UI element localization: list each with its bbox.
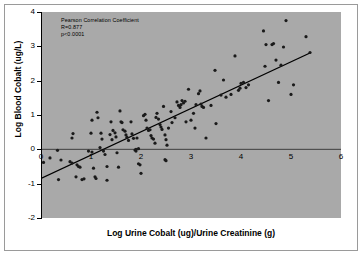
x-axis-tick-label: 4: [239, 153, 243, 161]
chart-figure: -2-101234 0123456 Log Blood Cobalt (ug/L…: [0, 0, 362, 255]
statistics-annotation: Pearson Correlation Coefficient R=0.877 …: [61, 17, 139, 39]
y-axis-title: Log Blood Cobalt (ug/L): [13, 19, 23, 159]
x-axis-tick-label: 3: [189, 153, 193, 161]
x-axis-tick-label: 5: [289, 153, 293, 161]
annotation-line-r: R=0.877: [61, 24, 139, 31]
annotation-line-p: p<0.0001: [61, 31, 139, 38]
x-axis-tick-labels: 0123456: [0, 0, 362, 255]
annotation-line-title: Pearson Correlation Coefficient: [61, 17, 139, 24]
x-axis-tick-label: 6: [339, 153, 343, 161]
x-axis-tick-label: 0: [39, 153, 43, 161]
x-axis-title: Log Urine Cobalt (ug)/Urine Creatinine (…: [41, 228, 341, 238]
x-axis-tick-label: 1: [89, 153, 93, 161]
x-axis-tick-label: 2: [139, 153, 143, 161]
